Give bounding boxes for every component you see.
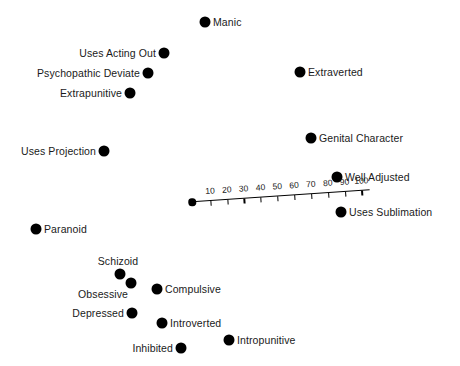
data-point-marker bbox=[31, 224, 42, 235]
data-point-marker bbox=[115, 269, 126, 280]
data-point-marker bbox=[126, 278, 137, 289]
data-point-label: Introverted bbox=[170, 318, 221, 329]
data-point-marker bbox=[143, 68, 154, 79]
ruler-tick-label: 40 bbox=[255, 183, 265, 192]
data-point-marker bbox=[125, 88, 136, 99]
data-point-label: Manic bbox=[213, 17, 242, 28]
ruler-tick bbox=[261, 197, 263, 202]
data-point-marker bbox=[295, 67, 306, 78]
data-point-label: Uses Acting Out bbox=[79, 48, 156, 59]
ruler-tick bbox=[328, 193, 330, 198]
data-point-label: Inhibited bbox=[132, 343, 173, 354]
ruler-tick bbox=[311, 194, 313, 199]
ruler-tick bbox=[294, 195, 296, 200]
ruler-tick bbox=[210, 201, 212, 206]
data-point-marker bbox=[127, 308, 138, 319]
ruler-tick-label: 100 bbox=[354, 176, 369, 185]
ruler-tick-label: 90 bbox=[339, 177, 349, 186]
ruler-tick-label: 50 bbox=[272, 181, 282, 190]
ruler-tick-label: 60 bbox=[289, 180, 299, 189]
ruler-tick bbox=[361, 191, 363, 196]
data-point-label: Uses Projection bbox=[21, 146, 96, 157]
ruler-tick bbox=[277, 196, 279, 201]
data-point-label: Intropunitive bbox=[237, 335, 296, 346]
data-point-marker bbox=[99, 146, 110, 157]
data-point-label: Schizoid bbox=[98, 256, 139, 267]
data-point-marker bbox=[157, 318, 168, 329]
data-point-marker bbox=[152, 284, 163, 295]
ruler-tick-label: 10 bbox=[205, 186, 215, 195]
data-point-label: Uses Sublimation bbox=[349, 207, 432, 218]
ruler-origin-marker bbox=[188, 198, 196, 206]
data-point-marker bbox=[176, 343, 187, 354]
data-point-label: Paranoid bbox=[44, 224, 87, 235]
data-point-marker bbox=[200, 17, 211, 28]
scatter-plot-canvas: ManicUses Acting OutPsychopathic Deviate… bbox=[0, 0, 460, 366]
ruler-tick bbox=[227, 200, 229, 205]
ruler-tick-label: 70 bbox=[306, 179, 316, 188]
data-point-marker bbox=[336, 207, 347, 218]
ruler-tick-label: 80 bbox=[323, 178, 333, 187]
data-point-label: Extrapunitive bbox=[60, 88, 122, 99]
data-point-label: Extraverted bbox=[308, 67, 363, 78]
data-point-label: Compulsive bbox=[165, 284, 221, 295]
data-point-marker bbox=[159, 48, 170, 59]
ruler-line bbox=[192, 189, 370, 202]
data-point-marker bbox=[224, 335, 235, 346]
ruler-tick-label: 30 bbox=[239, 184, 249, 193]
data-point-label: Genital Character bbox=[319, 133, 403, 144]
data-point-marker bbox=[306, 133, 317, 144]
ruler-tick-label: 20 bbox=[222, 185, 232, 194]
scale-ruler: 102030405060708090100 bbox=[192, 190, 370, 202]
data-point-label: Obsessive bbox=[78, 289, 128, 300]
data-point-label: Depressed bbox=[72, 308, 124, 319]
ruler-tick bbox=[244, 198, 246, 203]
ruler-tick bbox=[345, 192, 347, 197]
data-point-label: Psychopathic Deviate bbox=[37, 68, 140, 79]
